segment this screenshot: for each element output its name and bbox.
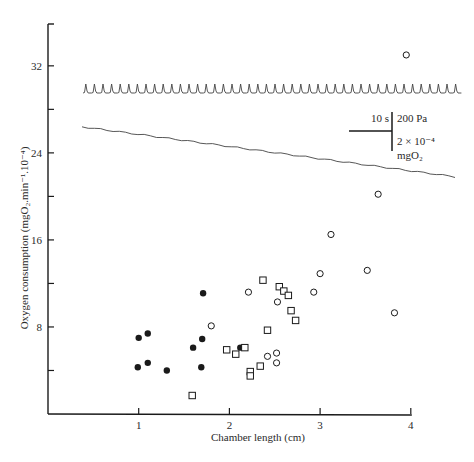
open-circle-point	[273, 350, 279, 356]
open-circle-point	[317, 271, 323, 277]
open-square-point	[288, 307, 294, 313]
open-square-point	[285, 292, 291, 298]
filled-circle-point	[135, 364, 141, 370]
filled-circle-point	[136, 335, 142, 341]
filled-circle-point	[164, 367, 170, 373]
filled-circle-point	[199, 336, 205, 342]
open-square-point	[292, 317, 298, 323]
open-square-point	[257, 363, 263, 369]
filled-circle-point	[145, 360, 151, 366]
open-circle-point	[311, 289, 317, 295]
open-circle-point	[391, 310, 397, 316]
open-square-point	[223, 347, 229, 353]
y-tick-label: 16	[31, 234, 43, 246]
open-circle-point	[375, 191, 381, 197]
inset-traces	[82, 84, 461, 178]
open-square-point	[260, 277, 266, 283]
filled-circle-point	[145, 330, 151, 336]
scatter-chart: 81624321234 10 s200 Pa2 × 10⁻⁴mgO₂ Chamb…	[0, 0, 474, 462]
open-circle-point	[264, 353, 270, 359]
pressure-trace	[83, 84, 461, 93]
x-axis-line	[48, 414, 412, 415]
open-square-point	[264, 327, 270, 333]
filled-circle-point	[200, 290, 206, 296]
open-square-point	[242, 344, 248, 350]
oxygen-scale-unit: mgO₂	[397, 149, 423, 161]
open-square-point	[189, 392, 195, 398]
x-axis-title: Chamber length (cm)	[211, 431, 305, 444]
x-tick-label: 3	[317, 419, 323, 431]
y-axis-title: Oxygen consumption (mgO₂.min⁻¹.10⁻⁴)	[18, 146, 31, 329]
filled-circle-point	[190, 344, 196, 350]
scale-bar: 10 s200 Pa2 × 10⁻⁴mgO₂	[349, 112, 435, 161]
open-circle-point	[328, 231, 334, 237]
open-circle-point	[274, 299, 280, 305]
open-circle-point	[364, 267, 370, 273]
pressure-scale-label: 200 Pa	[397, 112, 427, 124]
open-circle-point	[208, 323, 214, 329]
y-tick-label: 24	[31, 147, 43, 159]
y-tick-label: 8	[37, 321, 43, 333]
x-tick-label: 4	[408, 419, 414, 431]
open-circle-point	[273, 360, 279, 366]
x-tick-label: 1	[136, 419, 142, 431]
oxygen-scale-label: 2 × 10⁻⁴	[397, 135, 435, 147]
open-square-point	[247, 373, 253, 379]
axes: 81624321234	[31, 24, 414, 431]
y-tick-label: 32	[31, 60, 42, 72]
open-square-point	[233, 351, 239, 357]
data-points	[135, 52, 410, 399]
open-circle-point	[403, 52, 409, 58]
open-circle-point	[245, 289, 251, 295]
x-tick-label: 2	[227, 419, 233, 431]
time-scale-label: 10 s	[371, 112, 389, 124]
filled-circle-point	[198, 364, 204, 370]
